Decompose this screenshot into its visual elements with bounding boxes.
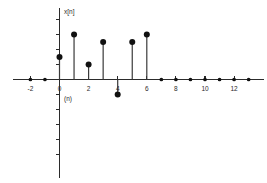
data-point-marker (247, 78, 251, 82)
x-tick-label: 0 (58, 85, 62, 92)
data-point-marker (29, 78, 33, 82)
data-point-marker (232, 78, 236, 82)
data-point-marker (57, 54, 63, 60)
x-tick-label: 8 (174, 85, 178, 92)
data-point-marker (115, 92, 121, 98)
x-axis-label: (n) (64, 95, 72, 103)
y-axis-label: x[n] (64, 8, 75, 16)
x-tick-label: 6 (145, 85, 149, 92)
data-point-marker (174, 78, 178, 82)
data-point-marker (71, 32, 77, 38)
axes-group (13, 8, 264, 178)
x-tick-label: 2 (87, 85, 91, 92)
x-tick-label: 12 (230, 85, 238, 92)
data-point-marker (144, 32, 150, 38)
chart-canvas: -2024681012 x[n] (n) (0, 0, 267, 183)
data-point-marker (189, 78, 193, 82)
stem-series (29, 32, 251, 98)
data-point-marker (100, 39, 106, 45)
x-tick-label: 4 (116, 85, 120, 92)
data-point-marker (129, 39, 135, 45)
stem-plot-figure: -2024681012 x[n] (n) (0, 0, 267, 183)
data-point-marker (160, 78, 164, 82)
data-point-marker (218, 78, 222, 82)
data-point-marker (203, 78, 207, 82)
x-axis-tick-labels: -2024681012 (28, 85, 239, 92)
x-tick-label: 10 (201, 85, 209, 92)
x-tick-label: -2 (28, 85, 34, 92)
data-point-marker (86, 62, 92, 68)
data-point-marker (43, 78, 47, 82)
